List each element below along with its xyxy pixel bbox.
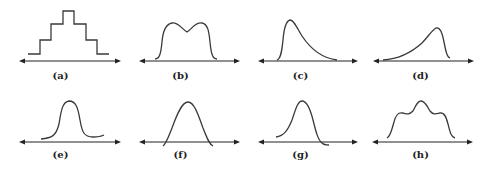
panel-g: (g) (240, 84, 361, 168)
panel-e: (e) (0, 84, 121, 168)
panel-label: (c) (240, 70, 361, 81)
panel-label: (b) (120, 70, 241, 81)
panel-label: (h) (360, 149, 481, 160)
panel-label: (e) (0, 149, 121, 160)
panel-label: (a) (0, 70, 121, 81)
panel-d: (d) (360, 0, 481, 84)
panel-c: (c) (240, 0, 361, 84)
panel-b: (b) (120, 0, 241, 84)
panel-label: (g) (240, 149, 361, 160)
panel-h: (h) (360, 84, 481, 168)
panel-label: (f) (120, 149, 241, 160)
panel-label: (d) (360, 70, 481, 81)
panel-f: (f) (120, 84, 241, 168)
panel-a: (a) (0, 0, 121, 84)
